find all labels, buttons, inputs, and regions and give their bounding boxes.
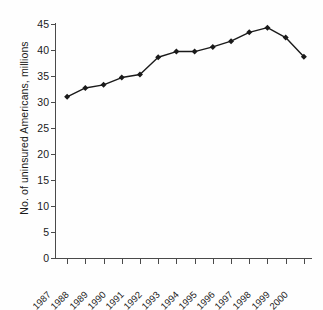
x-tick-mark [176, 258, 177, 264]
x-tick-mark [304, 258, 305, 264]
x-tick-mark [104, 258, 105, 264]
y-tick-label: 45 [37, 18, 49, 30]
x-tick-label: 1997 [212, 289, 235, 310]
data-point-marker [82, 85, 88, 91]
x-tick-mark [122, 258, 123, 264]
y-tick-label: 0 [43, 252, 49, 264]
x-tick-label: 1992 [121, 289, 144, 310]
y-tick-label: 40 [37, 44, 49, 56]
data-point-marker [64, 94, 70, 100]
x-tick-mark [286, 258, 287, 264]
chart-figure: No. of uninsured Americans, millions 051… [0, 0, 323, 310]
x-tick-label: 1996 [194, 289, 217, 310]
data-point-marker [119, 75, 125, 81]
x-tick-label: 1993 [140, 289, 163, 310]
x-tick-label: 1998 [231, 289, 254, 310]
x-tick-label: 2000 [267, 289, 290, 310]
y-tick-label: 15 [37, 174, 49, 186]
x-tick-label: 1989 [67, 289, 90, 310]
x-tick-label: 1994 [158, 289, 181, 310]
x-tick-label: 1987 [30, 289, 53, 310]
data-point-marker [264, 25, 270, 31]
y-tick-label: 5 [43, 226, 49, 238]
y-tick-label: 10 [37, 200, 49, 212]
y-tick-label: 35 [37, 70, 49, 82]
data-point-marker [228, 38, 234, 44]
plot-area: 051015202530354045 198719881989199019911… [56, 24, 311, 258]
line-series [56, 24, 311, 258]
x-tick-mark [195, 258, 196, 264]
x-tick-label: 1999 [249, 289, 272, 310]
data-point-marker [192, 49, 198, 55]
y-tick-mark [51, 258, 56, 259]
data-point-marker [210, 44, 216, 50]
data-point-marker [246, 29, 252, 35]
x-tick-mark [213, 258, 214, 264]
x-tick-label: 1995 [176, 289, 199, 310]
data-point-marker [101, 82, 107, 88]
x-tick-mark [231, 258, 232, 264]
x-tick-mark [249, 258, 250, 264]
x-tick-label: 1988 [49, 289, 72, 310]
y-tick-label: 20 [37, 148, 49, 160]
x-tick-mark [67, 258, 68, 264]
x-axis-line [55, 258, 312, 259]
y-tick-label: 30 [37, 96, 49, 108]
y-axis-title: No. of uninsured Americans, millions [18, 11, 30, 246]
x-tick-label: 1990 [85, 289, 108, 310]
x-tick-mark [85, 258, 86, 264]
y-tick-label: 25 [37, 122, 49, 134]
x-tick-label: 1991 [103, 289, 126, 310]
data-point-marker [173, 49, 179, 55]
x-tick-mark [267, 258, 268, 264]
x-tick-mark [158, 258, 159, 264]
x-tick-mark [140, 258, 141, 264]
